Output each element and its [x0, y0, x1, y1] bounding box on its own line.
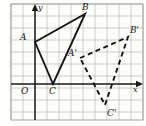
- triangle-a-prime-b-prime-c-prime: [80, 37, 128, 105]
- grid-border: [11, 4, 143, 120]
- label-c-prime: C': [107, 109, 116, 118]
- axes: [11, 4, 143, 120]
- geometry-figure: yxOABCA'B'C': [0, 0, 146, 126]
- grid-lines: [11, 4, 143, 120]
- diagram-canvas: [0, 0, 146, 126]
- label-a: A: [20, 33, 27, 42]
- label-b: B: [82, 3, 89, 12]
- label-origin: O: [21, 87, 28, 96]
- label-b-prime: B': [130, 26, 139, 35]
- label-y-axis: y: [38, 4, 43, 12]
- label-x-axis: x: [133, 86, 138, 94]
- triangle-abc: [35, 14, 85, 84]
- label-c: C: [49, 87, 56, 96]
- label-a-prime: A': [68, 49, 77, 58]
